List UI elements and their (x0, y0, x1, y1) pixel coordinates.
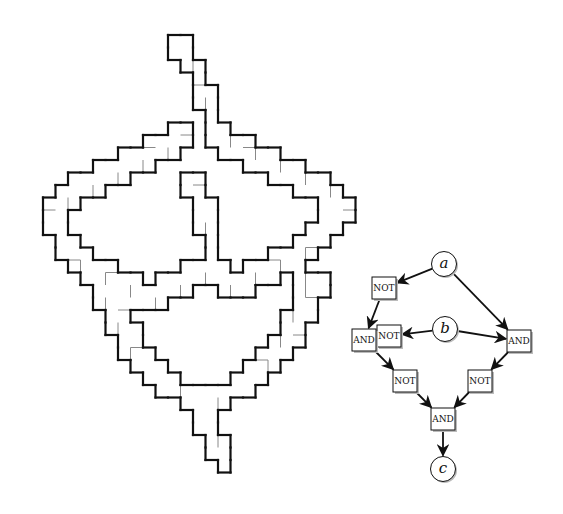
edge-a-to-and2 (453, 273, 508, 329)
edge-not4-to-and3 (454, 392, 469, 407)
node-c: c (431, 457, 458, 484)
edge-not1-to-and1 (369, 299, 380, 328)
gate-not4: NOT (468, 370, 494, 394)
node-label: b (440, 319, 450, 337)
edge-and1-to-not3 (375, 351, 393, 369)
gate-not2: NOT (377, 325, 403, 349)
gate-label: NOT (469, 376, 490, 386)
gate-and1: AND (352, 329, 378, 353)
node-a: a (432, 252, 459, 279)
gate-label: AND (431, 414, 454, 424)
edge-a-to-not1 (397, 269, 432, 283)
edge-b-to-not2 (402, 331, 433, 335)
node-label: a (440, 254, 449, 272)
node-label: c (439, 459, 448, 477)
gate-label: AND (507, 336, 530, 346)
gate-label: NOT (378, 331, 399, 341)
gate-label: AND (352, 335, 375, 345)
node-b: b (433, 317, 460, 344)
edge-and2-to-not4 (491, 352, 508, 369)
gate-label: NOT (373, 283, 394, 293)
gate-and3: AND (431, 408, 457, 432)
edge-not3-to-and3 (416, 392, 431, 407)
boolean-circuit: NOTNOTANDANDNOTNOTANDabc (0, 0, 563, 514)
edge-b-to-and2 (457, 331, 506, 339)
gate-not1: NOT (372, 277, 398, 301)
gate-not3: NOT (393, 370, 419, 394)
gate-and2: AND (507, 330, 533, 354)
gate-label: NOT (394, 376, 415, 386)
